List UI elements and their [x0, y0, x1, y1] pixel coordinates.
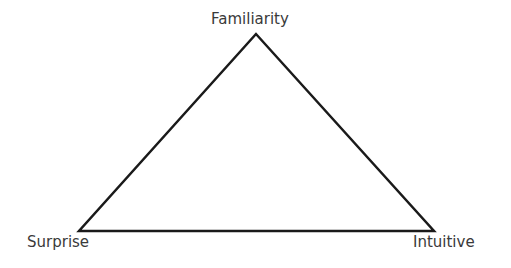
- vertex-label-surprise: Surprise: [27, 233, 89, 251]
- triangle-shape: [79, 34, 434, 231]
- vertex-label-intuitive: Intuitive: [413, 233, 475, 251]
- triangle-diagram: [0, 0, 511, 268]
- vertex-label-familiarity: Familiarity: [211, 10, 289, 28]
